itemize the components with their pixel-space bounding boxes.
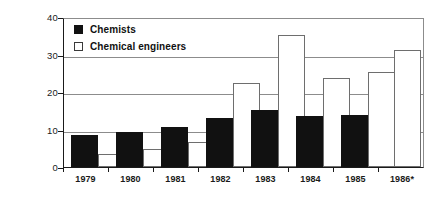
x-tick-label-1980: 1980	[108, 174, 153, 184]
y-tick-label-20: 20	[18, 88, 58, 98]
x-tick-label-1979: 1979	[63, 174, 108, 184]
x-tick-label-1981: 1981	[153, 174, 198, 184]
legend-label-chemists: Chemists	[90, 25, 136, 35]
bar-chemists-1981	[161, 127, 188, 168]
bar-chemists-1979	[71, 135, 98, 167]
legend-item-chemical-engineers: Chemical engineers	[74, 39, 186, 54]
hollow-square-icon	[74, 42, 83, 51]
gridline-30	[64, 57, 423, 58]
y-tick-label-30: 30	[18, 51, 58, 61]
x-tick-label-1982: 1982	[198, 174, 243, 184]
x-tick-label-1986: 1986*	[378, 174, 426, 184]
filled-square-icon	[74, 25, 83, 34]
bar-chemists-1980	[116, 132, 143, 167]
bar-engineers-1985	[368, 72, 395, 167]
x-axis: 1979 1980 1981 1982 1983 1984 1985 1986*	[0, 171, 438, 193]
x-tick-label-1985: 1985	[333, 174, 378, 184]
bar-engineers-1986	[394, 50, 421, 167]
chart-legend: Chemists Chemical engineers	[74, 22, 186, 56]
bar-chemists-1983	[251, 110, 278, 167]
x-tick-label-1983: 1983	[243, 174, 288, 184]
y-tick-label-10: 10	[18, 126, 58, 136]
bar-chemists-1982	[206, 118, 233, 168]
legend-item-chemists: Chemists	[74, 22, 186, 37]
legend-label-chemical-engineers: Chemical engineers	[90, 42, 186, 52]
x-tick-label-1984: 1984	[288, 174, 333, 184]
bar-chart: 40 30 20 10 0	[0, 0, 438, 198]
bar-chemists-1984	[296, 116, 323, 167]
y-tick-label-40: 40	[18, 13, 58, 23]
y-axis: 40 30 20 10 0	[8, 0, 58, 198]
bar-chemists-1985	[341, 115, 368, 168]
